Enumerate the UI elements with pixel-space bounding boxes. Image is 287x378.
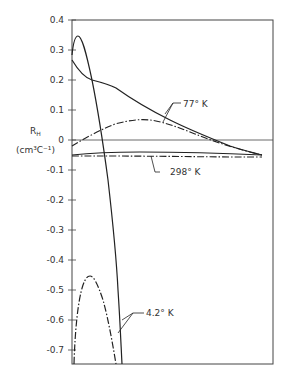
leader-77k-a: [165, 103, 181, 114]
y-axis-tick-labels: 0.40.30.20.10-0.1-0.2-0.3-0.4-0.5-0.6-0.…: [46, 15, 64, 355]
y-tick-label: -0.7: [46, 345, 64, 355]
annotation-leaders: [118, 103, 181, 333]
label-77k: 77° K: [183, 99, 209, 109]
y-tick-label: 0.3: [50, 45, 64, 55]
label-4-2k: 4.2° K: [146, 308, 175, 318]
y-tick-label: -0.3: [46, 225, 64, 235]
y-tick-label: -0.6: [46, 315, 64, 325]
hall-coefficient-chart: 0.40.30.20.10-0.1-0.2-0.3-0.4-0.5-0.6-0.…: [0, 0, 287, 378]
y-tick-label: -0.1: [46, 165, 64, 175]
curve-4-2k-dashdot: [74, 276, 116, 364]
curve-4-2k-solid: [72, 36, 122, 364]
leader-298k: [151, 156, 160, 172]
y-axis-label: RH: [30, 126, 41, 137]
y-tick-label: -0.4: [46, 255, 64, 265]
leader-4-2k-a: [122, 313, 144, 320]
curve-298k-solid: [72, 152, 262, 155]
label-298k: 298° K: [170, 167, 202, 177]
y-tick-label: 0.4: [50, 15, 65, 25]
y-axis-units: (cm³C⁻¹): [16, 145, 55, 155]
curve-77k-solid: [72, 60, 262, 155]
y-tick-label: 0.2: [50, 75, 64, 85]
y-tick-label: -0.5: [46, 285, 64, 295]
y-tick-label: -0.2: [46, 195, 64, 205]
y-tick-label: 0: [58, 135, 64, 145]
curve-298k-dashdot: [72, 156, 262, 157]
y-tick-label: 0.1: [50, 105, 64, 115]
